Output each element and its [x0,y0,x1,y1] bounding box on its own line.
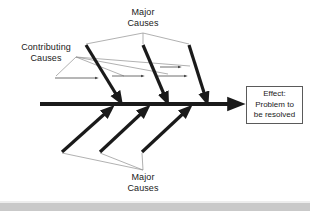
leader-lines-major-top [86,33,189,44]
contributing-cause-arrows [55,67,186,78]
leader-line-bottom-2 [100,153,143,170]
fishbone-diagram: Major Causes Contributing Causes Major C… [0,0,310,211]
major-bones-top [86,45,206,99]
effect-box-line2: Problem to [255,100,294,111]
leader-line-bottom-3 [142,153,143,170]
major-bone-bottom-1 [62,110,109,152]
effect-box: Effect: Problem to be resolved [246,86,303,124]
label-major-causes-top-line2: Causes [110,18,176,29]
label-contributing-causes-line1: Contributing [4,42,88,53]
leader-line-top-1 [86,33,143,44]
major-bone-bottom-3 [142,110,187,152]
label-major-causes-bottom-line2: Causes [110,183,176,194]
major-bone-bottom-2 [100,110,145,152]
leader-line-bottom-1 [62,153,143,170]
bottom-strip [0,203,310,211]
label-major-causes-top: Major Causes [110,7,176,29]
label-major-causes-bottom-line1: Major [110,172,176,183]
label-major-causes-bottom: Major Causes [110,172,176,194]
major-bone-top-3 [189,45,206,99]
label-major-causes-top-line1: Major [110,7,176,18]
effect-box-line1: Effect: [263,89,286,100]
leader-line-top-3 [143,33,189,44]
effect-box-line3: be resolved [254,110,295,121]
major-bone-top-2 [143,45,166,99]
label-contributing-causes-line2: Causes [4,53,88,64]
major-bones-bottom [62,110,187,152]
leader-lines-major-bottom [62,153,143,170]
label-contributing-causes: Contributing Causes [4,42,88,64]
